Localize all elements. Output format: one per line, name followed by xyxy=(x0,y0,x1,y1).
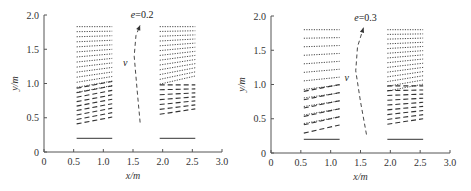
y-tick-label: 1.0 xyxy=(27,78,40,89)
dashed-line xyxy=(387,98,423,100)
x-axis-title: x/m xyxy=(125,170,140,181)
x-tick-label: 0 xyxy=(42,156,47,167)
dotted-line xyxy=(387,59,423,63)
y-tick-label: 2.0 xyxy=(254,11,267,22)
dotted-line xyxy=(77,58,113,62)
dotted-line xyxy=(304,109,340,115)
dotted-line xyxy=(160,47,196,50)
y-tick-label: 0 xyxy=(34,147,39,158)
dotted-line xyxy=(160,43,196,46)
y-tick-label: 1.5 xyxy=(254,45,267,56)
dotted-line xyxy=(77,49,113,52)
dashed-line xyxy=(387,111,423,115)
x-tick-label: 1.5 xyxy=(354,157,367,168)
dashed-line xyxy=(77,113,113,120)
x-tick-label: 1.0 xyxy=(324,157,337,168)
x-tick-label: 1.5 xyxy=(127,156,140,167)
dotted-line xyxy=(160,31,196,32)
dotted-line xyxy=(387,72,423,77)
dashed-line xyxy=(304,125,340,133)
x-tick-label: 1.0 xyxy=(97,156,110,167)
dotted-line xyxy=(387,38,423,39)
dashed-line xyxy=(387,94,423,95)
dashed-line xyxy=(77,99,113,106)
dashed-line xyxy=(387,119,423,124)
dotted-line xyxy=(77,40,113,42)
x-tick-label: 2.5 xyxy=(414,157,427,168)
dashed-line xyxy=(160,93,196,95)
dashed-line xyxy=(77,95,113,102)
x-tick-label: 0.5 xyxy=(67,156,80,167)
line-group-right-array xyxy=(387,30,423,140)
y-tick-label: 2.0 xyxy=(27,10,40,21)
dotted-line xyxy=(304,38,340,39)
dotted-line xyxy=(387,55,423,58)
dotted-line xyxy=(77,76,113,82)
dotted-line xyxy=(77,67,113,72)
dotted-line xyxy=(77,45,113,47)
figure: 00.51.01.52.02.53.000.51.01.52.0x/my/me=… xyxy=(0,0,471,191)
x-axis-title: x/m xyxy=(352,171,367,182)
dashed-line xyxy=(77,81,113,88)
dotted-line xyxy=(387,51,423,54)
dotted-line xyxy=(160,35,196,36)
dashed-line xyxy=(160,109,196,114)
velocity-arrow xyxy=(134,25,140,122)
y-axis-title: y/m xyxy=(9,76,20,91)
y-tick-label: 0.5 xyxy=(27,112,40,123)
x-tick-label: 0 xyxy=(269,157,274,168)
y-tick-label: 0 xyxy=(261,148,266,159)
y-axis-title: y/m xyxy=(236,77,247,92)
dashed-line xyxy=(160,101,196,105)
dashed-line xyxy=(77,117,113,124)
chart-panel-right: 00.51.01.52.02.53.000.51.01.52.0x/my/me=… xyxy=(236,11,456,183)
dotted-line xyxy=(160,39,196,41)
x-tick-label: 3.0 xyxy=(444,157,457,168)
x-tick-label: 2.0 xyxy=(156,156,169,167)
dotted-line xyxy=(160,55,196,60)
chart-figure: 00.51.01.52.02.53.000.51.01.52.0x/my/me=… xyxy=(0,0,471,191)
dotted-line xyxy=(77,31,113,32)
dotted-line xyxy=(160,51,196,55)
arrow-head-icon xyxy=(360,28,364,33)
dashed-line xyxy=(387,115,423,120)
dotted-line xyxy=(387,34,423,35)
dotted-line xyxy=(387,63,423,67)
dashed-line xyxy=(160,89,196,90)
dotted-line xyxy=(304,46,340,47)
dashed-line xyxy=(77,108,113,115)
dotted-line xyxy=(77,72,113,77)
x-tick-label: 2.0 xyxy=(384,157,397,168)
y-tick-label: 1.5 xyxy=(27,44,40,55)
dashed-line xyxy=(77,104,113,111)
velocity-label: v xyxy=(123,57,128,68)
dotted-line xyxy=(160,72,196,80)
dotted-line xyxy=(304,85,340,89)
dashed-line xyxy=(387,106,423,109)
dotted-line xyxy=(304,117,340,124)
dotted-line xyxy=(304,53,340,55)
dashed-line xyxy=(387,102,423,105)
dashed-line xyxy=(160,97,196,100)
dotted-line xyxy=(77,54,113,57)
velocity-arrow xyxy=(356,28,367,135)
x-tick-label: 3.0 xyxy=(216,156,229,167)
x-tick-label: 0.5 xyxy=(295,157,308,168)
eccentricity-annotation: e=0.3 xyxy=(354,12,377,23)
x-tick-label: 2.5 xyxy=(186,156,199,167)
dotted-line xyxy=(77,63,113,67)
eccentricity-annotation: e=0.2 xyxy=(131,9,154,20)
line-group-right-array xyxy=(160,27,196,139)
line-group-left-array xyxy=(304,30,340,140)
velocity-label: v xyxy=(345,72,350,83)
line-group-left-array xyxy=(77,27,113,139)
y-tick-label: 1.0 xyxy=(254,79,267,90)
dotted-line xyxy=(304,93,340,98)
dotted-line xyxy=(304,77,340,81)
dotted-line xyxy=(304,61,340,63)
dotted-line xyxy=(160,76,196,84)
dotted-line xyxy=(387,46,423,48)
dashed-line xyxy=(160,105,196,110)
dotted-line xyxy=(387,42,423,44)
y-tick-label: 0.5 xyxy=(254,113,267,124)
